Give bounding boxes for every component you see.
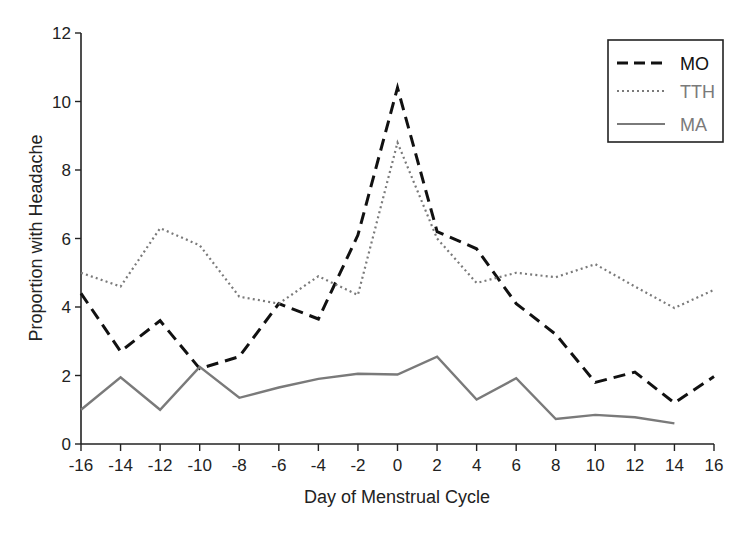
legend-label-mo: MO	[680, 54, 709, 74]
x-tick-label: -4	[311, 456, 326, 475]
x-tick-label: -6	[271, 456, 286, 475]
y-tick-label: 4	[62, 298, 71, 317]
line-chart: 024681012 -16-14-12-10-8-6-4-20246810121…	[0, 0, 745, 538]
x-tick-label: 8	[551, 456, 560, 475]
x-tick-label: 14	[665, 456, 684, 475]
y-tick-label: 12	[52, 24, 71, 43]
y-tick-label: 2	[62, 367, 71, 386]
series-line-ma	[81, 357, 674, 424]
x-tick-label: -2	[350, 456, 365, 475]
x-tick-label: 12	[625, 456, 644, 475]
y-axis-title: Proportion with Headache	[26, 134, 46, 341]
x-tick-label: 10	[586, 456, 605, 475]
y-tick-label: 10	[52, 93, 71, 112]
legend-label-tth: TTH	[680, 82, 715, 102]
x-tick-label: -10	[187, 456, 212, 475]
x-tick-label: 6	[511, 456, 520, 475]
x-tick-label: 16	[705, 456, 724, 475]
y-tick-label: 0	[62, 435, 71, 454]
x-tick-label: -12	[148, 456, 173, 475]
y-tick-label: 8	[62, 161, 71, 180]
x-axis-title: Day of Menstrual Cycle	[304, 487, 490, 507]
legend: MO TTH MA	[608, 40, 723, 142]
x-tick-label: 0	[393, 456, 402, 475]
x-tick-label: 2	[432, 456, 441, 475]
series-line-tth	[81, 143, 714, 308]
y-tick-label: 6	[62, 230, 71, 249]
y-axis: 024681012	[52, 24, 81, 454]
x-tick-label: -8	[232, 456, 247, 475]
x-tick-label: 4	[472, 456, 481, 475]
legend-label-ma: MA	[680, 115, 707, 135]
x-tick-label: -14	[108, 456, 133, 475]
x-axis: -16-14-12-10-8-6-4-20246810121416	[69, 444, 724, 475]
x-tick-label: -16	[69, 456, 94, 475]
